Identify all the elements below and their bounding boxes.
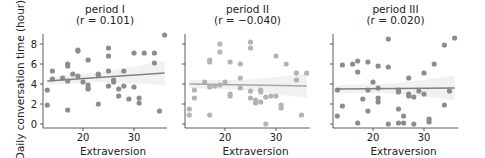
data-point [248,95,253,100]
data-point [228,93,233,98]
x-tick-label: 30 [128,132,141,143]
panel-3: period III(r = 0.020)2030Extraversion [330,3,458,157]
data-point [187,106,192,111]
data-point [273,93,278,98]
y-tick-label: 2 [31,99,37,110]
data-point [299,112,304,117]
data-point [207,112,212,117]
data-point [258,89,263,94]
data-point [370,79,375,84]
x-axis-label: Extraversion [222,145,288,157]
data-point [238,85,243,90]
data-point [447,88,452,93]
data-point [335,87,340,92]
data-point [365,59,370,64]
data-point [268,93,273,98]
data-point [421,91,426,96]
x-tick-label: 20 [77,132,90,143]
panel-correlation: (r = −0.040) [214,14,281,26]
data-point [335,113,340,118]
data-point [340,62,345,67]
data-point [86,85,91,90]
data-point [355,69,360,74]
panels: period I(r = 0.101)024682030Extraversion… [31,3,458,157]
data-point [396,89,401,94]
data-point [238,61,243,66]
panel-2: period II(r = −0.040)2030Extraversion [182,3,310,157]
data-point [121,83,126,88]
data-point [365,108,370,113]
data-point [238,75,243,80]
y-tick-label: 4 [31,79,37,90]
y-tick-label: 6 [31,59,37,70]
data-point [106,45,111,50]
data-point [228,59,233,64]
data-point [192,95,197,100]
data-point [432,61,437,66]
data-point [187,112,192,117]
data-point [217,49,222,54]
y-tick-label: 8 [31,39,37,50]
y-axis-label: Daily conversation time (hour) [14,0,26,158]
data-point [396,120,401,125]
data-point [192,87,197,92]
data-point [421,70,426,75]
data-point [355,120,360,125]
data-point [304,70,309,75]
data-point [442,102,447,107]
data-point [294,70,299,75]
confidence-band [47,61,164,85]
data-point [80,79,85,84]
data-point [452,35,457,40]
data-point [126,96,131,101]
data-point [116,93,121,98]
data-point [248,39,253,44]
data-point [263,121,268,126]
data-point [106,83,111,88]
data-point [116,86,121,91]
data-point [137,100,142,105]
data-point [406,93,411,98]
data-point [142,50,147,55]
data-point [248,45,253,50]
x-tick-label: 30 [270,132,283,143]
x-tick-label: 30 [418,132,431,143]
data-point [137,95,142,100]
data-point [396,106,401,111]
data-point [386,121,391,126]
data-point [65,63,70,68]
data-point [207,84,212,89]
x-axis-label: Extraversion [370,145,436,157]
data-point [279,105,284,110]
data-point [258,99,263,104]
x-axis-label: Extraversion [80,145,146,157]
panel-correlation: (r = 0.101) [76,14,134,26]
data-point [217,41,222,46]
data-point [45,102,50,107]
data-point [86,57,91,62]
data-point [416,88,421,93]
regression-line [337,88,454,89]
data-point [152,60,157,65]
data-point [207,59,212,64]
data-point [401,120,406,125]
data-point [75,73,80,78]
x-tick-label: 20 [219,132,232,143]
data-point [152,50,157,55]
data-point [360,96,365,101]
data-point [401,113,406,118]
data-point [253,100,258,105]
data-point [106,53,111,58]
data-point [162,32,167,37]
data-point [411,121,416,126]
data-point [406,75,411,80]
data-point [355,58,360,63]
data-point [45,87,50,92]
data-point [273,53,278,58]
panel-1: period I(r = 0.101)024682030Extraversion [31,3,168,157]
scatter-figure: Daily conversation time (hour) period I(… [0,0,485,158]
data-point [106,68,111,73]
data-point [65,107,70,112]
data-point [121,68,126,73]
data-point [442,42,447,47]
